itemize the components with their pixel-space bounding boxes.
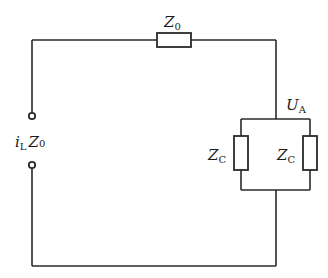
z0-label: Z0 — [163, 13, 181, 32]
terminal-bottom — [29, 162, 35, 168]
zc-left-label: ZC — [207, 146, 226, 165]
terminal-top — [29, 113, 35, 119]
z0-resistor — [157, 33, 191, 47]
circuit-diagram: Z0 iLZ0 UA ZC ZC — [0, 0, 328, 278]
ua-label: UA — [286, 96, 307, 115]
zc-left-resistor — [234, 136, 248, 170]
source-label: iLZ0 — [15, 133, 45, 152]
zc-right-label: ZC — [276, 146, 295, 165]
zc-right-resistor — [303, 136, 317, 170]
